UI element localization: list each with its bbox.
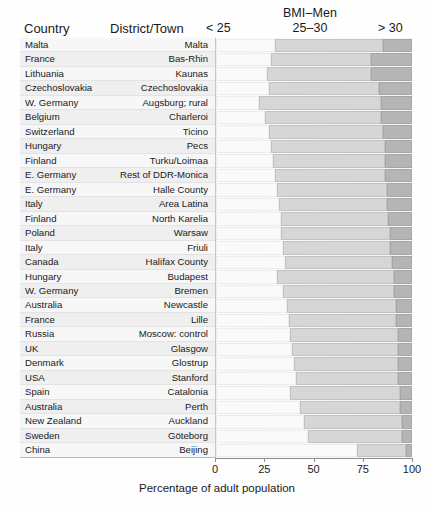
cell-district: Pecs: [20, 139, 208, 152]
table-row[interactable]: SwitzerlandTicino: [20, 125, 412, 139]
cell-district: Newcastle: [20, 298, 208, 311]
cell-district: Czechoslovakia: [20, 81, 208, 94]
x-tick-label: 50: [307, 463, 319, 475]
row-background: RussiaMoscow: control: [20, 327, 215, 341]
row-background: FinlandNorth Karelia: [20, 212, 215, 226]
cell-district: Budapest: [20, 270, 208, 283]
row-background: AustraliaNewcastle: [20, 298, 215, 312]
row-background: USAStanford: [20, 371, 215, 385]
row-background: ChinaBeijing: [20, 443, 215, 457]
table-row[interactable]: RussiaMoscow: control: [20, 327, 412, 341]
chart-header: BMI–Men Country District/Town < 25 25–30…: [0, 0, 434, 38]
table-row[interactable]: E. GermanyHalle County: [20, 183, 412, 197]
x-tick: [314, 458, 315, 462]
table-row[interactable]: FranceBas-Rhin: [20, 52, 412, 66]
cell-district: Perth: [20, 400, 208, 413]
table-body: MaltaMaltaFranceBas-RhinLithuaniaKaunasC…: [20, 38, 412, 458]
cell-district: Halle County: [20, 183, 208, 196]
table-row[interactable]: FinlandTurku/Loimaa: [20, 154, 412, 168]
cell-district: Turku/Loimaa: [20, 154, 208, 167]
cell-district: Friuli: [20, 241, 208, 254]
column-header-country: Country: [24, 21, 70, 36]
table-row[interactable]: W. GermanyAugsburg; rural: [20, 96, 412, 110]
row-background: SpainCatalonia: [20, 385, 215, 399]
cell-district: Kaunas: [20, 67, 208, 80]
row-background: LithuaniaKaunas: [20, 67, 215, 81]
cell-district: North Karelia: [20, 212, 208, 225]
row-background: FinlandTurku/Loimaa: [20, 154, 215, 168]
table-row[interactable]: ItalyArea Latina: [20, 197, 412, 211]
row-background: W. GermanyBremen: [20, 284, 215, 298]
x-tick: [215, 458, 216, 462]
table-row[interactable]: USAStanford: [20, 371, 412, 385]
row-background: HungaryPecs: [20, 139, 215, 153]
row-background: PolandWarsaw: [20, 226, 215, 240]
cell-district: Stanford: [20, 371, 208, 384]
table-row[interactable]: New ZealandAuckland: [20, 414, 412, 428]
row-background: UKGlasgow: [20, 342, 215, 356]
cell-district: Beijing: [20, 443, 208, 456]
group-title: BMI–Men: [255, 6, 365, 20]
legend-label-high: > 30: [378, 21, 403, 35]
table-row[interactable]: W. GermanyBremen: [20, 284, 412, 298]
column-header-district: District/Town: [110, 21, 184, 36]
table-row[interactable]: MaltaMalta: [20, 38, 412, 52]
row-background: MaltaMalta: [20, 38, 215, 52]
table-row[interactable]: ItalyFriuli: [20, 241, 412, 255]
cell-district: Rest of DDR-Monica: [20, 168, 208, 181]
cell-district: Auckland: [20, 414, 208, 427]
row-background: BelgiumCharleroi: [20, 110, 215, 124]
row-background: CanadaHalifax County: [20, 255, 215, 269]
x-tick-label: 75: [357, 463, 369, 475]
row-background: ItalyArea Latina: [20, 197, 215, 211]
table-row[interactable]: CzechoslovakiaCzechoslovakia: [20, 81, 412, 95]
table-row[interactable]: LithuaniaKaunas: [20, 67, 412, 81]
cell-district: Warsaw: [20, 226, 208, 239]
cell-district: Ticino: [20, 125, 208, 138]
row-background: SwedenGöteborg: [20, 429, 215, 443]
legend-label-mid: 25–30: [255, 21, 365, 35]
table-row[interactable]: AustraliaNewcastle: [20, 298, 412, 312]
row-background: FranceBas-Rhin: [20, 52, 215, 66]
x-tick: [363, 458, 364, 462]
table-row[interactable]: E. GermanyRest of DDR-Monica: [20, 168, 412, 182]
cell-district: Area Latina: [20, 197, 208, 210]
table-bottom-border: [20, 457, 215, 458]
table-row[interactable]: FranceLille: [20, 313, 412, 327]
cell-district: Bremen: [20, 284, 208, 297]
row-background: E. GermanyHalle County: [20, 183, 215, 197]
table-row[interactable]: AustraliaPerth: [20, 400, 412, 414]
table-row[interactable]: PolandWarsaw: [20, 226, 412, 240]
row-background: FranceLille: [20, 313, 215, 327]
cell-district: Charleroi: [20, 110, 208, 123]
table-row[interactable]: BelgiumCharleroi: [20, 110, 412, 124]
bmi-men-chart-page: BMI–Men Country District/Town < 25 25–30…: [0, 0, 434, 514]
row-background: New ZealandAuckland: [20, 414, 215, 428]
row-background: SwitzerlandTicino: [20, 125, 215, 139]
x-tick: [264, 458, 265, 462]
cell-district: Catalonia: [20, 385, 208, 398]
cell-district: Malta: [20, 38, 208, 51]
legend-label-low: < 25: [206, 21, 231, 35]
row-background: HungaryBudapest: [20, 270, 215, 284]
table-row[interactable]: SpainCatalonia: [20, 385, 412, 399]
table-row[interactable]: HungaryBudapest: [20, 270, 412, 284]
row-background: DenmarkGlostrup: [20, 356, 215, 370]
table-row[interactable]: ChinaBeijing: [20, 443, 412, 457]
row-background: AustraliaPerth: [20, 400, 215, 414]
cell-district: Glasgow: [20, 342, 208, 355]
cell-district: Göteborg: [20, 429, 208, 442]
cell-district: Glostrup: [20, 356, 208, 369]
x-tick-label: 0: [212, 463, 218, 475]
table-row[interactable]: SwedenGöteborg: [20, 429, 412, 443]
table-row[interactable]: FinlandNorth Karelia: [20, 212, 412, 226]
cell-district: Halifax County: [20, 255, 208, 268]
table-row[interactable]: UKGlasgow: [20, 342, 412, 356]
table-row[interactable]: HungaryPecs: [20, 139, 412, 153]
row-background: W. GermanyAugsburg; rural: [20, 96, 215, 110]
cell-district: Moscow: control: [20, 327, 208, 340]
table-row[interactable]: DenmarkGlostrup: [20, 356, 412, 370]
cell-district: Bas-Rhin: [20, 52, 208, 65]
table-row[interactable]: CanadaHalifax County: [20, 255, 412, 269]
row-background: E. GermanyRest of DDR-Monica: [20, 168, 215, 182]
